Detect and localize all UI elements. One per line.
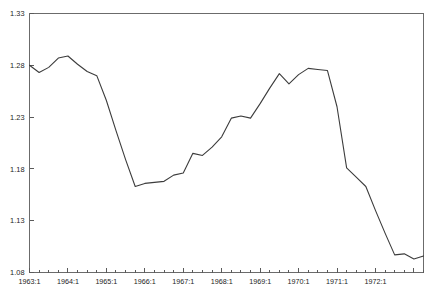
x-tick-label: 1972:1 <box>364 277 386 286</box>
caption-strip <box>0 298 436 307</box>
y-tick-label: 1.18 <box>10 165 24 174</box>
x-tick-label: 1970:1 <box>288 277 310 286</box>
chart-background <box>0 0 436 307</box>
x-tick-label: 1966:1 <box>134 277 156 286</box>
y-tick-label: 1.23 <box>10 113 24 122</box>
x-tick-label: 1969:1 <box>249 277 271 286</box>
x-tick-label: 1965:1 <box>95 277 117 286</box>
x-tick-label: 1963:1 <box>19 277 41 286</box>
x-tick-label: 1964:1 <box>57 277 79 286</box>
x-tick-label: 1967:1 <box>172 277 194 286</box>
y-tick-label: 1.13 <box>10 216 24 225</box>
x-tick-label: 1971:1 <box>326 277 348 286</box>
y-tick-label: 1.28 <box>10 61 24 70</box>
y-tick-label: 1.33 <box>10 9 24 18</box>
x-tick-label: 1968:1 <box>211 277 233 286</box>
line-chart: 1.081.131.181.231.281.33 1963:11964:1196… <box>0 0 436 307</box>
chart-figure: 1.081.131.181.231.281.33 1963:11964:1196… <box>0 0 436 307</box>
